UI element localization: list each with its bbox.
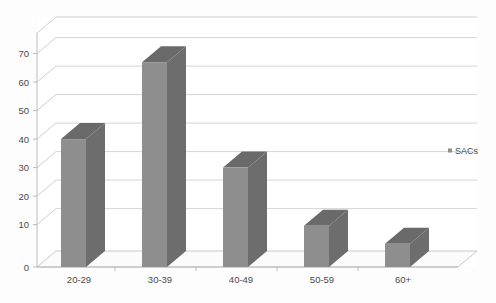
- bar-side-face: [86, 123, 105, 267]
- legend-color-swatch: [448, 149, 452, 153]
- y-tick-label-60: 60: [18, 77, 29, 88]
- y-tick-label-20: 20: [18, 191, 29, 202]
- x-tick-label-50-59: 50-59: [310, 274, 334, 285]
- y-tick-label-70: 70: [18, 48, 29, 59]
- bar-group-40-49[interactable]: [223, 152, 267, 267]
- bar-side-face: [167, 46, 186, 267]
- bar-front-face: [61, 139, 86, 267]
- bar-front-face: [223, 168, 248, 267]
- x-tick-label-60plus: 60+: [395, 274, 412, 285]
- x-tick-label-20-29: 20-29: [67, 274, 91, 285]
- bar-front-face: [142, 62, 167, 267]
- y-tick-label-30: 30: [18, 162, 29, 173]
- x-tick-label-30-39: 30-39: [148, 274, 172, 285]
- y-tick-label-50: 50: [18, 105, 29, 116]
- legend-label-sacs: SACs: [455, 146, 479, 156]
- x-tick-label-40-49: 40-49: [229, 274, 253, 285]
- bar-chart: 70 60 50 40 30 20 10 0 20-29 30-39: [0, 0, 496, 303]
- bar-side-face: [248, 152, 267, 267]
- y-tick-label-10: 10: [18, 219, 29, 230]
- bar-group-30-39[interactable]: [142, 46, 186, 267]
- bar-front-face: [385, 244, 410, 267]
- y-tick-label-40: 40: [18, 134, 29, 145]
- bar-front-face: [304, 226, 329, 267]
- y-tick-label-0: 0: [24, 262, 29, 273]
- bar-group-20-29[interactable]: [61, 123, 105, 267]
